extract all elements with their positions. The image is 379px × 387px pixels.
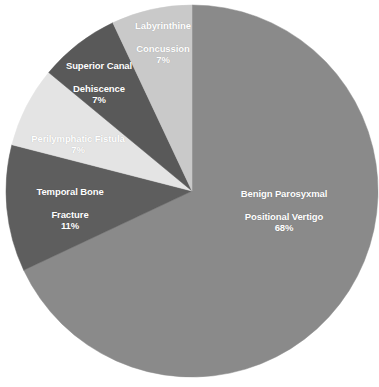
pie-chart: Benign Parosyxmal Positional Vertigo 68%…	[0, 0, 379, 387]
pie-slice-group	[6, 5, 378, 377]
pie-chart-canvas	[0, 0, 379, 387]
